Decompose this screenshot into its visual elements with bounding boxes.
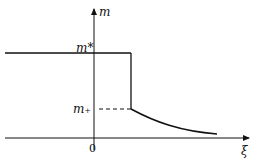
decay-curve	[131, 109, 217, 134]
lower-level-label: m₊	[73, 102, 91, 116]
upper-level-label: m*	[76, 41, 93, 55]
x-axis-label: ξ	[241, 144, 249, 158]
y-axis-label: m	[99, 5, 110, 19]
diagram-canvas: m ξ 0 m* m₊	[0, 0, 255, 162]
origin-label: 0	[89, 142, 96, 155]
